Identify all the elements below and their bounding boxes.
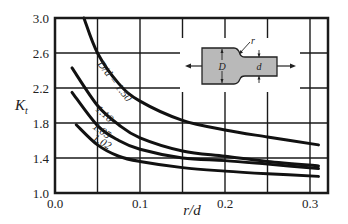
y-tick-labels: 1.01.41.82.22.63.0 xyxy=(33,11,50,201)
x-tick-label: 0.2 xyxy=(217,196,233,211)
x-tick-label: 0.3 xyxy=(302,196,318,211)
curve-1.02 xyxy=(76,125,318,177)
y-tick-label: 3.0 xyxy=(33,11,49,26)
inset-diagram: D d r xyxy=(180,35,300,92)
x-axis-label: r/d xyxy=(183,202,201,218)
y-axis-label: Kt xyxy=(14,97,28,116)
stress-concentration-chart: D d r 1.01.41.82.22.63.0 0.00.10.20.3 Kt… xyxy=(0,0,348,224)
D-label: D xyxy=(217,61,226,72)
y-tick-label: 1.4 xyxy=(33,151,50,166)
r-label: r xyxy=(251,35,255,46)
curve-label: D/d = 1.50 xyxy=(95,57,135,104)
y-tick-label: 2.2 xyxy=(33,81,49,96)
y-tick-label: 2.6 xyxy=(33,46,50,61)
x-tick-label: 0.1 xyxy=(132,196,148,211)
y-tick-label: 1.8 xyxy=(33,116,49,131)
x-tick-label: 0.0 xyxy=(47,196,63,211)
